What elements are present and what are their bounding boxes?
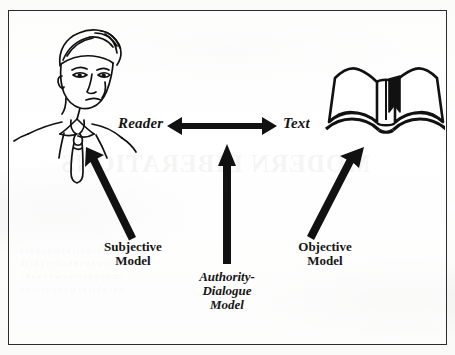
model-label-subjective-line-1: Subjective xyxy=(83,240,183,254)
model-label-objective-line-1: Objective xyxy=(275,240,375,254)
model-label-authority-dialogue: Authority- Dialogue Model xyxy=(177,270,277,312)
model-label-objective-line-2: Model xyxy=(275,254,375,268)
model-label-authority-dialogue-line-3: Model xyxy=(177,298,277,312)
node-label-reader: Reader xyxy=(118,115,163,132)
model-label-subjective-line-2: Model xyxy=(83,254,183,268)
scanned-page: MODERN LIBERATIONS a b c d e f g h i j k… xyxy=(0,0,455,355)
model-label-authority-dialogue-line-2: Dialogue xyxy=(177,284,277,298)
model-label-objective: Objective Model xyxy=(275,240,375,268)
node-label-text: Text xyxy=(283,115,310,132)
model-label-authority-dialogue-line-1: Authority- xyxy=(177,270,277,284)
model-label-subjective: Subjective Model xyxy=(83,240,183,268)
